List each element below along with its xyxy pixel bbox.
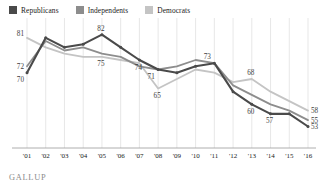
legend-swatch-republicans <box>9 6 17 14</box>
x-tick-06: '06 <box>117 152 125 160</box>
data-point-republicans[interactable] <box>307 125 310 128</box>
data-label: 70 <box>17 76 25 84</box>
data-label: 57 <box>266 117 274 125</box>
x-tick-09: '09 <box>173 152 181 160</box>
legend-swatch-independents <box>76 6 84 14</box>
legend-label-democrats: Democrats <box>157 6 190 15</box>
gallup-line-chart: RepublicansIndependentsDemocrats 7082746… <box>0 0 323 192</box>
data-point-republicans[interactable] <box>250 103 253 106</box>
x-axis-labels: '01'02'03'04'05'06'07'08'09'10'11'12'13'… <box>0 152 323 168</box>
x-tick-01: '01 <box>23 152 31 160</box>
x-tick-08: '08 <box>154 152 162 160</box>
data-point-republicans[interactable] <box>232 90 235 93</box>
chart-legend: RepublicansIndependentsDemocrats <box>9 3 207 17</box>
data-point-republicans[interactable] <box>26 71 29 74</box>
chart-svg: 708274605753727173558175656858 <box>0 18 323 151</box>
legend-item-republicans[interactable]: Republicans <box>9 6 59 15</box>
data-point-republicans[interactable] <box>119 46 122 49</box>
x-tick-07: '07 <box>135 152 143 160</box>
x-tick-12: '12 <box>229 152 237 160</box>
series-line-independents[interactable] <box>27 41 308 120</box>
data-point-republicans[interactable] <box>288 112 291 115</box>
legend-label-independents: Independents <box>88 6 129 15</box>
plot-area: 708274605753727173558175656858 <box>0 18 323 151</box>
data-point-republicans[interactable] <box>100 33 103 36</box>
data-point-republicans[interactable] <box>157 68 160 71</box>
x-tick-02: '02 <box>42 152 50 160</box>
x-tick-14: '14 <box>266 152 274 160</box>
data-label: 82 <box>97 25 105 33</box>
legend-item-independents[interactable]: Independents <box>76 6 129 15</box>
data-label: 68 <box>247 69 255 77</box>
data-label: 75 <box>97 60 105 68</box>
x-tick-03: '03 <box>60 152 68 160</box>
series-line-republicans[interactable] <box>27 35 308 127</box>
x-tick-05: '05 <box>98 152 106 160</box>
source-attribution: GALLUP <box>9 173 46 182</box>
data-point-republicans[interactable] <box>269 112 272 115</box>
legend-swatch-democrats <box>145 6 153 14</box>
data-label: 58 <box>311 107 319 115</box>
x-tick-04: '04 <box>79 152 87 160</box>
data-label: 74 <box>135 64 143 72</box>
x-tick-13: '13 <box>248 152 256 160</box>
data-label: 72 <box>17 63 25 71</box>
data-label: 71 <box>148 73 156 81</box>
data-label: 81 <box>17 30 25 38</box>
data-label: 55 <box>311 117 319 125</box>
data-label: 73 <box>204 53 212 61</box>
legend-label-republicans: Republicans <box>21 6 59 15</box>
legend-item-democrats[interactable]: Democrats <box>145 6 190 15</box>
data-point-republicans[interactable] <box>213 62 216 65</box>
data-point-republicans[interactable] <box>194 65 197 68</box>
series-line-democrats[interactable] <box>27 38 308 111</box>
data-label: 60 <box>247 108 255 116</box>
data-point-republicans[interactable] <box>44 36 47 39</box>
x-tick-16: '16 <box>304 152 312 160</box>
data-label: 65 <box>154 92 162 100</box>
data-point-republicans[interactable] <box>175 71 178 74</box>
data-point-republicans[interactable] <box>138 59 141 62</box>
data-point-republicans[interactable] <box>82 43 85 46</box>
data-point-republicans[interactable] <box>63 46 66 49</box>
x-tick-15: '15 <box>285 152 293 160</box>
x-tick-10: '10 <box>191 152 199 160</box>
x-tick-11: '11 <box>210 152 218 160</box>
